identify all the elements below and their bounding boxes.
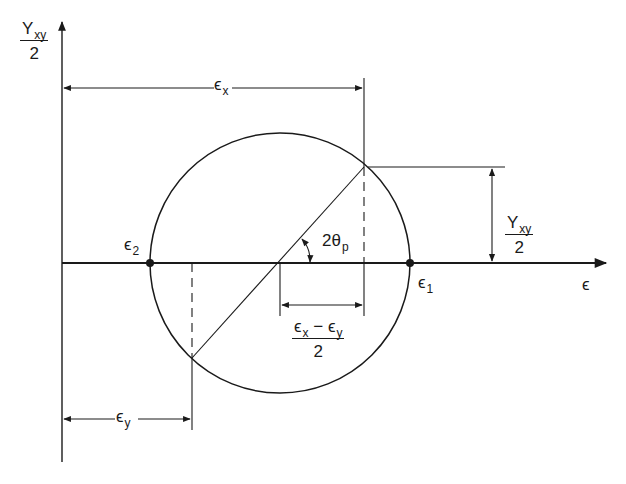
- point-e1: [406, 259, 414, 267]
- angle-label: 2θp: [322, 232, 349, 249]
- vertical-axis-label: Yxy 2: [20, 20, 48, 62]
- e2-label: ϵ2: [124, 236, 139, 253]
- ex-label: ϵx: [214, 76, 229, 93]
- angle-arc: [302, 239, 310, 262]
- horizontal-axis-label: ϵ: [582, 276, 590, 293]
- e1-label: ϵ1: [418, 274, 433, 291]
- half-diff-label: ϵx − ϵy 2: [292, 318, 344, 360]
- half-gamma-label: Yxy 2: [505, 214, 533, 256]
- point-e2: [146, 259, 154, 267]
- ey-label: ϵy: [116, 408, 131, 425]
